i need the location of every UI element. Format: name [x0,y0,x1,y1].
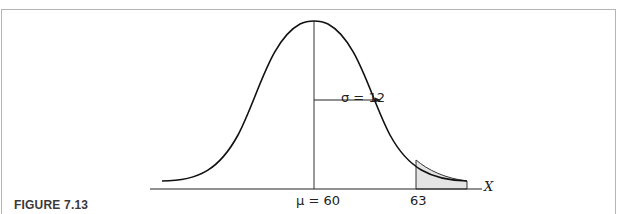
normal-curve-diagram [0,0,619,214]
shaded-tail-region [416,160,467,189]
value-63-label: 63 [410,193,427,208]
figure-caption: FIGURE 7.13 [14,198,88,212]
mean-label: μ = 60 [296,193,340,208]
sigma-label: σ = 12 [341,90,385,105]
x-axis-label: X [484,179,493,194]
